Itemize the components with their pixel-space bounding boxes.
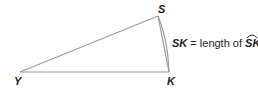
arc-symbol-icon: [246, 33, 258, 39]
annotation-equals-text: = length of: [187, 37, 245, 49]
vertex-label-s: S: [158, 4, 165, 15]
annotation-lhs: SK: [172, 37, 187, 49]
vertex-label-k: K: [167, 76, 175, 87]
arc-length-annotation: SK = length of SK: [172, 38, 258, 49]
segment-ys: [20, 16, 158, 72]
vertex-label-y: Y: [14, 76, 21, 87]
annotation-rhs-arc: SK: [245, 38, 258, 49]
segment-sk: [158, 16, 169, 72]
